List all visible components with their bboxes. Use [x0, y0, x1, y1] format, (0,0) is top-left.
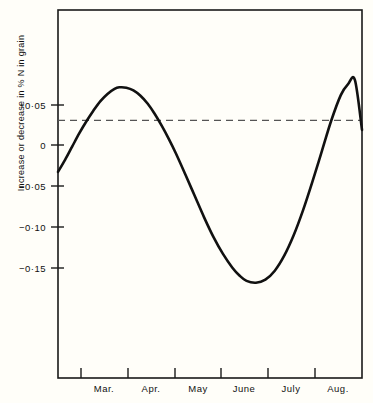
y-tick-label-4: −0·15 — [0, 263, 46, 274]
plot-frame-border — [58, 10, 362, 378]
chart-plot-area — [0, 0, 373, 403]
x-tick-label-june: June — [233, 383, 256, 394]
x-tick-label-may: May — [188, 383, 207, 394]
y-axis-title: Increase or decrease in % N in grain — [16, 13, 26, 213]
x-tick-label-mar: Mar. — [94, 383, 114, 394]
y-tick-label-3: −0·10 — [0, 222, 46, 233]
x-tick-label-july: July — [282, 383, 301, 394]
x-tick-label-aug: Aug. — [327, 383, 349, 394]
chart-figure: +0·05 0 −0·05 −0·10 −0·15 Mar. Apr. May … — [0, 0, 373, 403]
data-series-line — [58, 77, 362, 283]
x-axis-ticks — [81, 368, 315, 378]
x-tick-label-apr: Apr. — [142, 383, 161, 394]
